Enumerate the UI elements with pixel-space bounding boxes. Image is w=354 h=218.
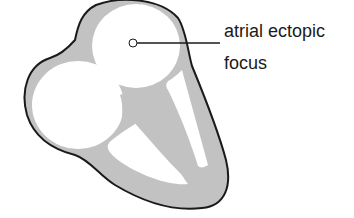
annotation-line1: atrial ectopic [224,22,325,40]
atrium-chamber-left [32,61,124,149]
ectopic-focus-marker [129,39,137,47]
annotation-line2: focus [224,54,267,72]
